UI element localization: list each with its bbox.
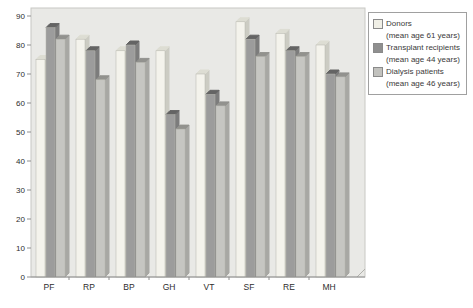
legend-item-dialysis-patients: Dialysis patients (mean age 46 years) [373,66,464,90]
y-tick-label: 10 [16,244,25,253]
bar-RP-2 [96,80,105,277]
bar-side [185,125,189,277]
bar-BP-1 [126,45,135,277]
bar-chart: 0102030405060708090PFRPBPGHVTSFREMH Dono… [0,0,473,308]
bar-GH-2 [176,129,185,277]
x-category-label: PF [44,282,55,292]
bar-RE-2 [296,57,305,277]
x-category-label: BP [123,282,135,292]
bar-RE-0 [276,33,285,277]
legend-label-dialysis-patients: Dialysis patients [386,66,460,78]
bar-BP-2 [136,62,145,277]
legend-label-transplant-recipients: Transplant recipients [386,42,460,54]
x-category-label: VT [204,282,215,292]
legend-swatch-donors [373,19,383,29]
bar-GH-0 [156,51,165,277]
bar-SF-2 [256,57,265,277]
bar-side [145,58,149,277]
bar-side [305,53,309,277]
bar-GH-1 [166,115,175,277]
bar-MH-2 [336,77,345,277]
y-tick-label: 70 [16,70,25,79]
legend-swatch-transplant-recipients [373,43,383,53]
bar-side [65,35,69,277]
y-tick-label: 50 [16,128,25,137]
y-tick-label: 0 [21,273,26,282]
bar-RP-1 [86,51,95,277]
legend-sub-transplant-recipients: (mean age 44 years) [386,54,460,66]
legend-swatch-dialysis-patients [373,67,383,77]
bar-PF-0 [36,60,45,278]
bar-SF-0 [236,22,245,277]
bar-side [265,53,269,277]
legend-item-transplant-recipients: Transplant recipients (mean age 44 years… [373,42,464,66]
bar-VT-2 [216,106,225,277]
y-tick-label: 60 [16,99,25,108]
legend-sub-donors: (mean age 61 years) [386,30,460,42]
bar-PF-2 [56,39,65,277]
x-category-label: RE [283,282,295,292]
x-category-label: RP [83,282,95,292]
bar-side [345,73,349,277]
x-category-label: SF [244,282,255,292]
bar-side [225,102,229,277]
bar-SF-1 [246,39,255,277]
bar-side [105,76,109,277]
y-tick-label: 20 [16,215,25,224]
legend: Donors (mean age 61 years) Transplant re… [368,12,467,95]
y-tick-label: 30 [16,186,25,195]
legend-label-donors: Donors [386,18,460,30]
bar-RP-0 [76,39,85,277]
legend-item-donors: Donors (mean age 61 years) [373,18,464,42]
bar-VT-0 [196,74,205,277]
bar-RE-1 [286,51,295,277]
y-tick-label: 90 [16,12,25,21]
legend-sub-dialysis-patients: (mean age 46 years) [386,78,460,90]
bar-MH-1 [326,74,335,277]
x-category-label: MH [322,282,335,292]
bar-MH-0 [316,45,325,277]
y-tick-label: 80 [16,41,25,50]
bar-PF-1 [46,28,55,277]
y-tick-label: 40 [16,157,25,166]
bar-VT-1 [206,94,215,277]
x-category-label: GH [163,282,176,292]
bar-BP-0 [116,51,125,277]
